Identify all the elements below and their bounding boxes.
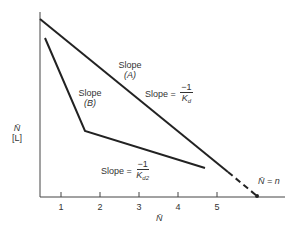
slope-b-label-line1: Slope	[72, 88, 108, 98]
slope-a-equation: Slope = −1 Kd	[145, 83, 193, 106]
slope-a-eq-prefix: Slope =	[145, 89, 176, 99]
y-axis-label-top: N̄	[8, 123, 26, 133]
slope-b-eq-prefix: Slope =	[101, 166, 132, 176]
slope-b-numerator: −1	[137, 160, 149, 170]
slope-b-label: Slope (B)	[72, 88, 108, 108]
slope-b-label-line2: (B)	[72, 98, 108, 108]
x-tick-4: 4	[173, 202, 183, 212]
y-axis-label: N̄ [L]	[8, 123, 26, 143]
x-tick-2: 2	[95, 202, 105, 212]
slope-b-fraction: −1 Kd2	[136, 160, 149, 183]
slope-a-label-line1: Slope	[112, 60, 148, 70]
slope-b-denominator-sub: d2	[142, 175, 149, 181]
x-axis-label: N̄	[156, 213, 163, 223]
intercept-label: N̄ = n	[258, 176, 280, 186]
slope-a-numerator: −1	[180, 83, 192, 93]
slope-a-label-line2: (A)	[112, 70, 148, 80]
x-axis-ticks	[61, 192, 217, 197]
y-axis-label-bottom: [L]	[8, 133, 26, 143]
slope-b-equation: Slope = −1 Kd2	[101, 160, 149, 183]
x-tick-1: 1	[56, 202, 66, 212]
slope-a-denominator-sub: d	[188, 98, 191, 104]
x-tick-5: 5	[212, 202, 222, 212]
slope-a-fraction: −1 Kd	[180, 83, 192, 106]
intercept-point	[255, 194, 259, 198]
slope-a-label: Slope (A)	[112, 60, 148, 80]
diagram-lines	[0, 0, 296, 232]
line-a	[40, 19, 228, 172]
line-a-extrapolation	[228, 172, 257, 196]
x-tick-3: 3	[134, 202, 144, 212]
scatchard-plot-diagram: N̄ [L] Slope (A) Slope (B) Slope = −1 Kd…	[0, 0, 296, 232]
